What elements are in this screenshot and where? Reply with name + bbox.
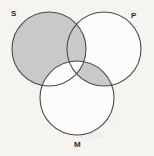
circle-label-s: S [11,10,16,18]
venn-diagram-svg [0,0,154,156]
venn-diagram-figure: inclusionthe S oranotherconclusionpremis… [0,0,154,156]
circle-label-m: M [74,141,81,149]
circle-label-p: P [131,12,136,20]
